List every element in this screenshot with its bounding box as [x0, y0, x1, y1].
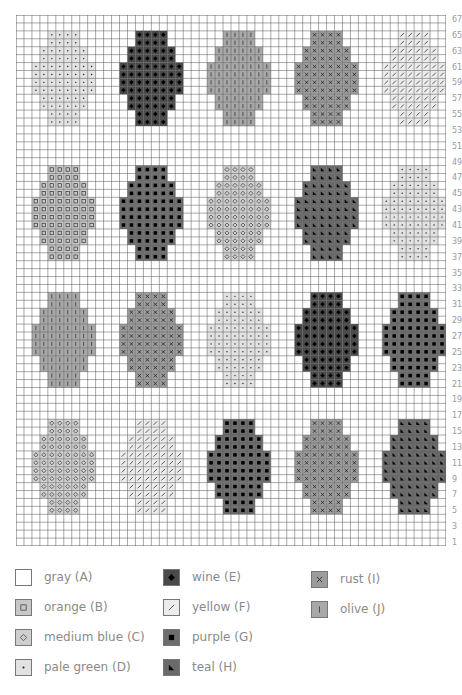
row-number-label: 67 — [452, 14, 462, 23]
legend-item-olive: olive (J) — [311, 599, 385, 619]
legend-item-rust: rust (I) — [311, 569, 380, 589]
color-key-legend: gray (A) orange (B) medium blue (C) pale… — [0, 560, 462, 695]
pale-green-swatch-icon — [15, 659, 32, 676]
wine-swatch-icon — [163, 569, 180, 586]
gray-swatch-icon — [15, 569, 32, 586]
legend-label: pale green (D) — [44, 660, 131, 674]
row-number-label: 13 — [452, 442, 462, 451]
row-number-label: 43 — [452, 205, 462, 214]
row-number-label: 1 — [452, 538, 457, 547]
row-number-label: 9 — [452, 474, 457, 483]
purple-swatch-icon — [163, 629, 180, 646]
legend-label: orange (B) — [44, 600, 108, 614]
row-number-label: 17 — [452, 411, 462, 420]
legend-label: medium blue (C) — [44, 630, 145, 644]
row-number-label: 7 — [452, 490, 457, 499]
row-number-label: 3 — [452, 522, 457, 531]
olive-swatch-icon — [311, 601, 328, 618]
row-number-label: 25 — [452, 347, 462, 356]
row-number-label: 51 — [452, 141, 462, 150]
row-number-label: 65 — [452, 30, 462, 39]
row-number-label: 11 — [452, 458, 462, 467]
row-number-label: 37 — [452, 252, 462, 261]
orange-swatch-icon — [15, 599, 32, 616]
row-number-label: 57 — [452, 94, 462, 103]
legend-label: teal (H) — [192, 660, 237, 674]
rust-swatch-icon — [311, 571, 328, 588]
legend-label: olive (J) — [340, 602, 385, 616]
row-number-label: 39 — [452, 236, 462, 245]
legend-item-wine: wine (E) — [163, 567, 241, 587]
legend-item-medium-blue: medium blue (C) — [15, 627, 145, 647]
row-number-label: 63 — [452, 46, 462, 55]
row-number-label: 41 — [452, 221, 462, 230]
legend-item-teal: teal (H) — [163, 657, 237, 677]
row-number-label: 27 — [452, 331, 462, 340]
row-number-label: 19 — [452, 395, 462, 404]
row-number-label: 21 — [452, 379, 462, 388]
legend-label: wine (E) — [192, 570, 241, 584]
legend-label: yellow (F) — [192, 600, 250, 614]
legend-item-purple: purple (G) — [163, 627, 253, 647]
row-number-label: 33 — [452, 284, 462, 293]
medium-blue-swatch-icon — [15, 629, 32, 646]
row-number-label: 29 — [452, 316, 462, 325]
legend-item-yellow: yellow (F) — [163, 597, 250, 617]
teal-swatch-icon — [163, 659, 180, 676]
row-number-label: 53 — [452, 125, 462, 134]
row-number-label: 5 — [452, 506, 457, 515]
row-number-label: 35 — [452, 268, 462, 277]
legend-label: gray (A) — [44, 570, 92, 584]
row-number-label: 59 — [452, 78, 462, 87]
legend-item-gray: gray (A) — [15, 567, 92, 587]
legend-item-pale-green: pale green (D) — [15, 657, 131, 677]
row-number-label: 45 — [452, 189, 462, 198]
row-number-label: 47 — [452, 173, 462, 182]
yellow-swatch-icon — [163, 599, 180, 616]
legend-item-orange: orange (B) — [15, 597, 108, 617]
row-number-label: 61 — [452, 62, 462, 71]
row-number-label: 49 — [452, 157, 462, 166]
row-number-label: 23 — [452, 363, 462, 372]
row-number-label: 55 — [452, 110, 462, 119]
cross-stitch-chart — [16, 15, 446, 546]
row-number-label: 15 — [452, 427, 462, 436]
row-number-label: 31 — [452, 300, 462, 309]
legend-label: rust (I) — [340, 572, 380, 586]
legend-label: purple (G) — [192, 630, 253, 644]
